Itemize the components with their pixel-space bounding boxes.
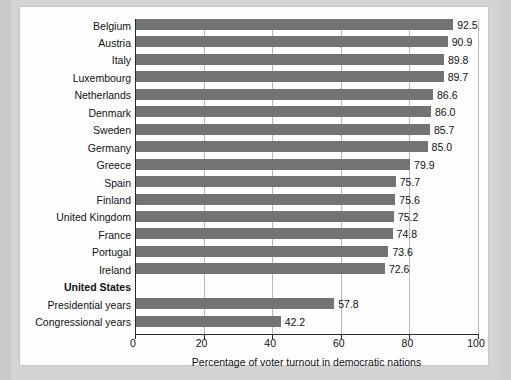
category-label: Finland	[22, 194, 131, 206]
bar	[136, 228, 393, 239]
bar-value-label: 75.6	[399, 195, 419, 206]
bar-value-label: 57.8	[338, 299, 358, 310]
bar-chart: 020406080100Belgium92.5Austria90.9Italy8…	[20, 7, 488, 365]
bar-value-label: 73.6	[392, 247, 412, 258]
bar	[136, 176, 396, 187]
x-axis-tick-label: 100	[448, 337, 504, 349]
bar-value-label: 89.7	[448, 72, 468, 83]
bar	[136, 89, 433, 100]
x-axis-tick-label: 20	[174, 337, 230, 349]
bar-value-label: 86.6	[437, 90, 457, 101]
bar	[136, 36, 448, 47]
bar	[136, 298, 334, 309]
bar-value-label: 72.6	[389, 264, 409, 275]
category-label: Belgium	[22, 20, 131, 32]
bar-value-label: 75.7	[400, 177, 420, 188]
bar-value-label: 75.2	[398, 212, 418, 223]
bar	[136, 141, 428, 152]
category-label: France	[22, 229, 131, 241]
bar-value-label: 85.7	[434, 125, 454, 136]
category-label: United States	[22, 281, 131, 293]
bar	[136, 263, 385, 274]
category-label: Portugal	[22, 246, 131, 258]
figure-card: 020406080100Belgium92.5Austria90.9Italy8…	[20, 7, 488, 365]
category-label: Italy	[22, 54, 131, 66]
bar-value-label: 90.9	[452, 37, 472, 48]
bar-value-label: 85.0	[432, 142, 452, 153]
category-label: Austria	[22, 37, 131, 49]
bar	[136, 54, 444, 65]
page-left-shadow-band	[0, 0, 11, 380]
x-axis-line	[135, 334, 479, 335]
category-label: Spain	[22, 177, 131, 189]
bar	[136, 159, 410, 170]
bar	[136, 194, 395, 205]
page-right-shadow-band	[499, 0, 511, 380]
category-label: Sweden	[22, 124, 131, 136]
category-label: Greece	[22, 159, 131, 171]
category-label: Netherlands	[22, 89, 131, 101]
bar-value-label: 86.0	[435, 107, 455, 118]
bar	[136, 124, 430, 135]
x-axis-tick-label: 40	[242, 337, 298, 349]
x-axis-tick-label: 80	[379, 337, 435, 349]
bar-value-label: 89.8	[448, 55, 468, 66]
bar	[136, 211, 394, 222]
bar	[136, 316, 281, 327]
category-label: Denmark	[22, 107, 131, 119]
bar-value-label: 74.8	[397, 229, 417, 240]
bar	[136, 19, 453, 30]
category-label: Luxembourg	[22, 72, 131, 84]
category-label: Ireland	[22, 264, 131, 276]
gridline	[478, 19, 479, 334]
category-label: Germany	[22, 142, 131, 154]
scanned-page-background: 020406080100Belgium92.5Austria90.9Italy8…	[0, 0, 511, 380]
x-axis-tick-label: 0	[105, 337, 161, 349]
category-label: Presidential years	[22, 299, 131, 311]
bar	[136, 71, 444, 82]
bar-value-label: 92.5	[457, 20, 477, 31]
bar-value-label: 79.9	[414, 160, 434, 171]
bar	[136, 246, 388, 257]
bar	[136, 106, 431, 117]
category-label: United Kingdom	[22, 211, 131, 223]
x-axis-tick-label: 60	[311, 337, 367, 349]
bar-value-label: 42.2	[285, 317, 305, 328]
x-axis-title: Percentage of voter turnout in democrati…	[135, 356, 478, 368]
category-label: Congressional years	[22, 316, 131, 328]
